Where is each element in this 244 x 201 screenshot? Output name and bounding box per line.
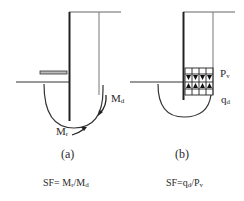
eq-b-prefix: SF=q bbox=[166, 177, 188, 188]
label-qd: qd bbox=[221, 94, 230, 106]
label-md: Md bbox=[111, 93, 124, 105]
heave-pressure-block bbox=[185, 68, 213, 95]
eq-a-prefix: SF= M bbox=[43, 177, 71, 188]
panel-b-drawing bbox=[130, 12, 235, 117]
caption-b: (b) bbox=[175, 148, 189, 160]
label-md-sub: d bbox=[121, 97, 125, 105]
eq-a-mid: /M bbox=[74, 177, 86, 188]
caption-a: (a) bbox=[61, 148, 74, 160]
eq-b-mid: /P bbox=[191, 177, 199, 188]
eq-b-sub2: v bbox=[200, 181, 204, 189]
equation-b: SF=qd/Pv bbox=[166, 178, 203, 189]
anchor-strut-icon bbox=[40, 71, 67, 74]
label-pv-sub: v bbox=[226, 72, 230, 80]
mr-arrow-icon bbox=[72, 129, 84, 135]
label-qd-sub: d bbox=[227, 98, 231, 106]
label-mr: Mr bbox=[56, 126, 68, 138]
panel-a-drawing bbox=[16, 12, 121, 135]
label-mr-main: M bbox=[56, 125, 66, 137]
label-mr-sub: r bbox=[66, 130, 68, 138]
label-md-main: M bbox=[111, 92, 121, 104]
failure-arc-a bbox=[44, 84, 103, 128]
equation-a: SF= Mr/Md bbox=[43, 178, 89, 189]
eq-a-sub2: d bbox=[85, 181, 89, 189]
label-pv: Pv bbox=[220, 68, 230, 80]
